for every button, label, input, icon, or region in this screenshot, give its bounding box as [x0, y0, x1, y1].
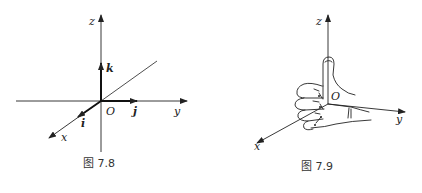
z-axis-label: z	[89, 16, 95, 27]
origin-label: O	[331, 91, 340, 102]
k-vector-label: k	[106, 63, 114, 74]
z-axis-label: z	[316, 16, 322, 27]
knuckle-marks	[314, 95, 322, 126]
y-axis-label: y	[174, 106, 180, 117]
figure-caption: 图 7.9	[301, 161, 333, 172]
i-vector-label: i	[81, 118, 85, 129]
figure-7-8: z k O j y i x 图 7.8	[0, 0, 211, 193]
x-axis-label: x	[61, 132, 67, 143]
figure-caption: 图 7.8	[83, 158, 115, 169]
x-axis-label: x	[254, 141, 260, 152]
figure-7-9: z O y x 图 7.9	[211, 0, 422, 193]
i-vector	[78, 101, 101, 117]
j-vector-label: j	[133, 106, 137, 117]
x-axis-line	[257, 104, 328, 143]
origin-label: O	[106, 106, 115, 117]
y-axis-label: y	[396, 114, 402, 125]
